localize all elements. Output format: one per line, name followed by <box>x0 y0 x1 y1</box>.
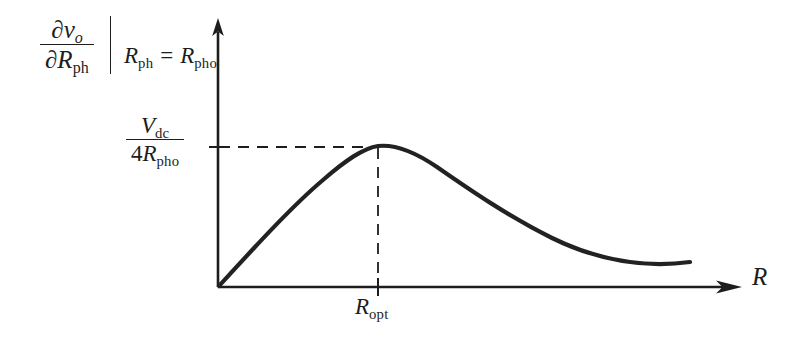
evaluation-condition: Rph=Rpho <box>124 44 217 74</box>
y-axis-value-label: Vdc 4Rpho <box>126 114 184 166</box>
x-axis <box>218 280 742 293</box>
y-value-denominator-sub: pho <box>157 153 180 169</box>
derivative-numerator-sub: o <box>75 29 83 46</box>
derivative-denominator-var: R <box>57 46 72 73</box>
condition-equals: = <box>160 43 173 68</box>
y-value-fraction: Vdc 4Rpho <box>126 114 184 166</box>
derivative-numerator-var: v <box>64 16 75 43</box>
derivative-numerator: ∂vo <box>40 17 94 45</box>
y-value-denominator-coeff: 4 <box>131 141 143 166</box>
sensitivity-curve <box>219 146 690 286</box>
derivative-fraction: ∂vo ∂Rph <box>40 17 94 74</box>
condition-rhs-sub: pho <box>194 55 217 71</box>
y-value-numerator: Vdc <box>126 114 184 140</box>
derivative-label: ∂vo ∂Rph Rph=Rpho <box>40 16 217 74</box>
y-value-numerator-var: V <box>141 113 155 138</box>
x-axis-name-label: R <box>752 264 767 290</box>
ropt-var: R <box>355 294 369 319</box>
condition-lhs-var: R <box>124 43 138 68</box>
derivative-denominator: ∂Rph <box>40 45 94 73</box>
y-value-numerator-sub: dc <box>155 125 169 141</box>
ropt-sub: opt <box>369 306 388 322</box>
partial-symbol-numerator: ∂ <box>51 16 63 43</box>
x-axis-tick-label-ropt: Ropt <box>355 295 388 319</box>
figure-container: ∂vo ∂Rph Rph=Rpho Vdc 4Rpho Ropt R <box>0 0 801 339</box>
y-value-denominator-var: R <box>143 141 157 166</box>
condition-rhs-var: R <box>180 43 194 68</box>
evaluation-bar-icon <box>110 16 111 74</box>
partial-symbol-denominator: ∂ <box>45 46 57 73</box>
y-value-denominator: 4Rpho <box>126 140 184 166</box>
derivative-denominator-sub: ph <box>73 59 89 76</box>
condition-lhs-sub: ph <box>138 55 153 71</box>
